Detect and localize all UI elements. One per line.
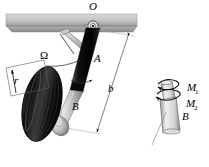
- label-moment-1-sub: 1: [195, 88, 199, 96]
- label-strut-lower-B: B: [72, 100, 79, 112]
- detail-cylinder-B: [152, 97, 180, 145]
- ext-line-bottom: [66, 128, 101, 134]
- label-trail-length: b: [108, 82, 114, 94]
- label-wheel-radius: r: [14, 74, 19, 86]
- landing-gear-figure: r b Ω A B O: [0, 0, 209, 167]
- label-moment-1: M 1: [186, 81, 199, 96]
- figure-canvas: r b Ω A B O: [0, 0, 209, 167]
- label-detail-body-B: B: [182, 110, 189, 122]
- detail-view: M 1 M 2 B: [152, 80, 199, 145]
- label-spin-rate: Ω: [40, 49, 48, 61]
- label-pivot-O: O: [89, 0, 97, 12]
- label-moment-2-sub: 2: [194, 104, 198, 112]
- label-strut-upper-A: A: [93, 52, 101, 64]
- fuselage-panel: [6, 14, 137, 32]
